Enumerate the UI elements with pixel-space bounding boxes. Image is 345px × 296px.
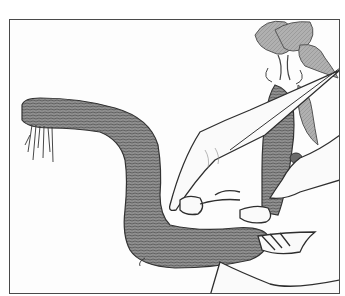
horseradish-illustration: [0, 0, 345, 296]
illustration-canvas: [0, 0, 345, 296]
